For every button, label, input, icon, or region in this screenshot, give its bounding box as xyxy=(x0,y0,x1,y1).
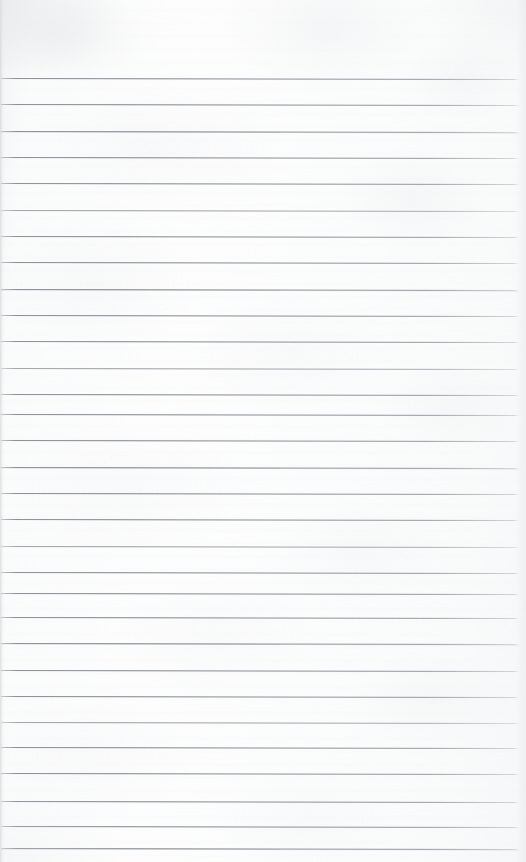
left-scan-edge xyxy=(0,0,5,862)
ruled-line xyxy=(1,670,519,672)
ruled-line xyxy=(1,183,519,185)
ruled-line xyxy=(1,773,519,775)
ruled-line xyxy=(1,440,519,442)
ruled-line xyxy=(1,104,519,106)
ruled-line xyxy=(1,315,519,317)
ruled-line xyxy=(1,78,519,80)
lined-paper-page xyxy=(0,0,526,862)
ruled-line xyxy=(1,722,519,724)
ruled-line xyxy=(1,848,519,850)
ruled-line xyxy=(1,572,519,574)
ruled-line xyxy=(1,210,519,212)
ruled-line xyxy=(1,617,519,619)
ruled-line xyxy=(1,414,519,416)
ruled-line xyxy=(1,801,519,803)
ruled-line xyxy=(1,747,519,749)
right-scan-edge xyxy=(516,0,526,862)
ruled-line xyxy=(1,394,519,396)
ruled-line xyxy=(1,368,519,370)
ruled-line xyxy=(1,519,519,521)
ruled-line xyxy=(1,546,519,548)
ruled-lines-group xyxy=(0,0,526,862)
ruled-line xyxy=(1,593,519,595)
ruled-line xyxy=(1,236,519,238)
ruled-line xyxy=(1,826,519,828)
ruled-line xyxy=(1,341,519,343)
ruled-line xyxy=(1,157,519,159)
ruled-line xyxy=(1,289,519,291)
ruled-line xyxy=(1,696,519,698)
ruled-line xyxy=(1,131,519,133)
ruled-line xyxy=(1,643,519,645)
ruled-line xyxy=(1,262,519,264)
ruled-line xyxy=(1,467,519,469)
ruled-line xyxy=(1,493,519,495)
